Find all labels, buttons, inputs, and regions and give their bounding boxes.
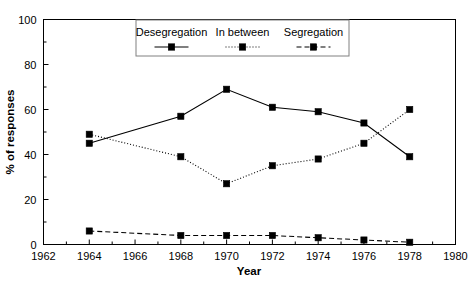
data-point-marker bbox=[407, 154, 413, 160]
legend-label: In between bbox=[216, 26, 270, 38]
data-point-marker bbox=[178, 113, 184, 119]
data-point-marker bbox=[407, 239, 413, 245]
x-tick-label: 1978 bbox=[397, 250, 421, 262]
x-tick-label: 1970 bbox=[214, 250, 238, 262]
y-tick-label: 80 bbox=[24, 59, 36, 71]
data-point-marker bbox=[269, 104, 275, 110]
data-point-marker bbox=[224, 232, 230, 238]
data-point-marker bbox=[269, 163, 275, 169]
y-axis-tick-labels: 020406080100 bbox=[18, 14, 36, 251]
line-chart: 020406080100 196219641966196819701972197… bbox=[0, 0, 475, 293]
data-point-marker bbox=[361, 120, 367, 126]
data-point-marker bbox=[86, 228, 92, 234]
x-axis-tick-labels: 1962196419661968197019721974197619781980 bbox=[31, 250, 467, 262]
data-point-marker bbox=[315, 235, 321, 241]
x-tick-label: 1976 bbox=[352, 250, 376, 262]
data-point-marker bbox=[86, 131, 92, 137]
data-point-marker bbox=[315, 109, 321, 115]
legend-marker-sample bbox=[310, 44, 316, 50]
chart-canvas: 020406080100 196219641966196819701972197… bbox=[0, 0, 475, 293]
data-point-marker bbox=[178, 232, 184, 238]
y-tick-label: 20 bbox=[24, 194, 36, 206]
y-tick-label: 40 bbox=[24, 149, 36, 161]
data-point-marker bbox=[224, 86, 230, 92]
legend-label: Desegregation bbox=[136, 26, 208, 38]
legend-label: Segregation bbox=[284, 26, 343, 38]
legend-marker-sample bbox=[168, 44, 174, 50]
x-tick-label: 1980 bbox=[443, 250, 467, 262]
data-point-marker bbox=[361, 237, 367, 243]
data-point-marker bbox=[361, 140, 367, 146]
data-point-marker bbox=[86, 140, 92, 146]
chart-legend: DesegregationIn betweenSegregation bbox=[136, 20, 349, 56]
legend-marker-sample bbox=[239, 44, 245, 50]
data-point-marker bbox=[269, 232, 275, 238]
y-axis-title: % of responses bbox=[4, 90, 16, 175]
series-desegregation bbox=[86, 86, 413, 160]
data-point-marker bbox=[178, 154, 184, 160]
x-axis-title: Year bbox=[237, 265, 262, 277]
y-tick-label: 60 bbox=[24, 104, 36, 116]
data-point-marker bbox=[407, 106, 413, 112]
data-point-marker bbox=[315, 156, 321, 162]
y-tick-label: 100 bbox=[18, 14, 36, 26]
data-point-marker bbox=[224, 181, 230, 187]
x-tick-label: 1964 bbox=[77, 250, 101, 262]
x-tick-label: 1966 bbox=[123, 250, 147, 262]
x-tick-label: 1968 bbox=[169, 250, 193, 262]
x-tick-label: 1972 bbox=[260, 250, 284, 262]
series-in-between bbox=[86, 106, 413, 186]
x-tick-label: 1962 bbox=[31, 250, 55, 262]
data-series-layer bbox=[86, 86, 413, 245]
x-tick-label: 1974 bbox=[306, 250, 330, 262]
